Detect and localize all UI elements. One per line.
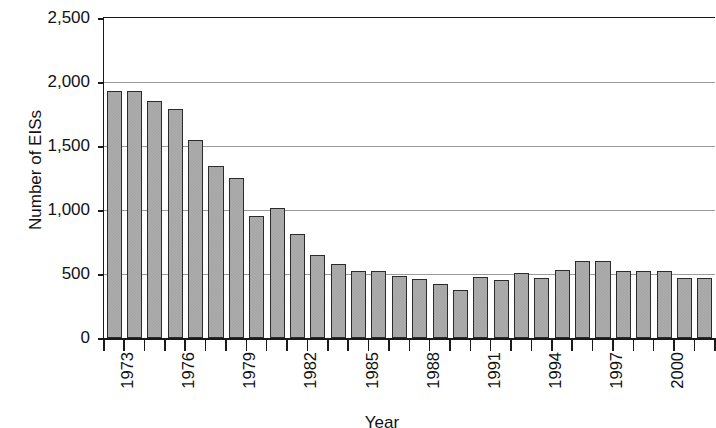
x-axis-tick-label: 1991 [486, 352, 503, 410]
x-axis-tick-mark [388, 338, 390, 351]
bar [127, 91, 142, 338]
y-axis-tick-label: 2,500 [14, 9, 90, 26]
bar [249, 216, 264, 338]
bar [433, 284, 448, 338]
y-axis-tick-label: 500 [14, 265, 90, 282]
x-axis-tick-mark [205, 338, 207, 351]
bar [657, 271, 672, 338]
x-axis-tick-mark [470, 338, 472, 351]
bar [412, 279, 427, 338]
x-axis-tick-label: 2000 [669, 352, 686, 410]
x-axis-tick-labels: 1973197619791982198519881991199419972000 [103, 352, 714, 410]
x-axis-tick-mark [327, 338, 329, 351]
x-axis-tick-mark [409, 338, 411, 351]
bar [453, 290, 468, 338]
bar [392, 276, 407, 338]
x-axis-tick-mark [551, 338, 553, 351]
x-axis-tick-mark [449, 338, 451, 351]
x-axis-tick-mark [673, 338, 675, 351]
x-axis-tick-mark [633, 338, 635, 351]
x-axis-tick-mark [246, 338, 248, 351]
x-axis-tick-mark [286, 338, 288, 351]
bar [290, 234, 305, 338]
bar [575, 261, 590, 338]
x-axis-tick-label: 1994 [547, 352, 564, 410]
x-axis-tick-mark [123, 338, 125, 351]
x-axis-tick-mark [103, 338, 105, 351]
x-axis-tick-label: 1982 [302, 352, 319, 410]
bar [147, 101, 162, 338]
bar [107, 91, 122, 338]
x-axis-tick-mark [714, 338, 716, 351]
x-axis-tick-label: 1979 [241, 352, 258, 410]
bar [636, 271, 651, 338]
bar [168, 109, 183, 338]
x-axis-tick-label: 1997 [608, 352, 625, 410]
x-axis-tick-mark [266, 338, 268, 351]
bar [208, 166, 223, 338]
x-axis-tick-mark [592, 338, 594, 351]
x-axis-tick-label: 1973 [119, 352, 136, 410]
x-axis-tick-mark [510, 338, 512, 351]
bar [331, 264, 346, 338]
x-axis-tick-mark [653, 338, 655, 351]
bar [473, 277, 488, 338]
bar [514, 273, 529, 338]
y-axis-tick-label: 1,000 [14, 201, 90, 218]
x-axis-tick-mark [490, 338, 492, 351]
y-axis-tick-labels: 05001,0001,5002,0002,500 [12, 0, 90, 428]
y-axis-tick-label: 1,500 [14, 137, 90, 154]
x-axis-tick-mark [144, 338, 146, 351]
x-axis-tick-mark [571, 338, 573, 351]
x-axis-tick-label: 1985 [364, 352, 381, 410]
bar [595, 261, 610, 338]
x-axis-tick-mark [347, 338, 349, 351]
x-axis-tick-mark [368, 338, 370, 351]
x-axis-ticks [103, 338, 714, 351]
bar [494, 280, 509, 338]
bar [697, 278, 712, 338]
bar [371, 271, 386, 338]
x-axis-tick-mark [184, 338, 186, 351]
plot-area [103, 17, 715, 338]
x-axis-tick-mark [164, 338, 166, 351]
x-axis-tick-mark [612, 338, 614, 351]
x-axis-tick-mark [225, 338, 227, 351]
bar [351, 271, 366, 338]
bar [229, 178, 244, 338]
x-axis-tick-mark [429, 338, 431, 351]
x-axis-tick-mark [307, 338, 309, 351]
bar [188, 140, 203, 338]
x-axis-tick-label: 1976 [180, 352, 197, 410]
bar [310, 255, 325, 338]
y-axis-tick-label: 2,000 [14, 73, 90, 90]
x-axis-tick-mark [694, 338, 696, 351]
x-axis-tick-mark [531, 338, 533, 351]
bar [270, 208, 285, 338]
x-axis-tick-label: 1988 [425, 352, 442, 410]
bar [534, 278, 549, 338]
bar [677, 278, 692, 338]
y-axis-tick-label: 0 [14, 329, 90, 346]
x-axis-title: Year [0, 413, 714, 428]
bar [555, 270, 570, 338]
bars-group [104, 18, 715, 338]
bar [616, 271, 631, 338]
